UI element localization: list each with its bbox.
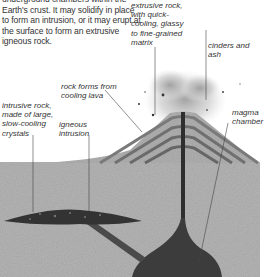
label-cinders-ash: cinders and ash: [208, 41, 264, 59]
label-rock-forms-lava: rock forms from cooling lava: [61, 82, 117, 100]
label-magma-chamber: magma chamber: [232, 108, 263, 126]
label-extrusive-rock: extrusive rock, with quick- cooling, gla…: [131, 1, 183, 47]
label-intrusive-rock: intrusive rock, made of large, slow-cool…: [2, 101, 53, 138]
label-igneous-intrusion: igneous intrusion: [59, 120, 89, 138]
